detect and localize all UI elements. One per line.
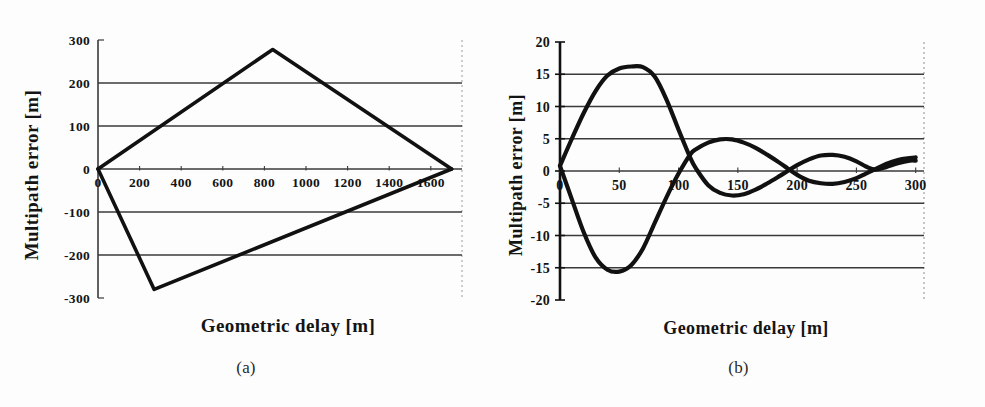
y-axis-title: Multipath error [m] bbox=[506, 94, 526, 256]
y-tick-label: 10 bbox=[535, 100, 550, 115]
y-tick-label: -300 bbox=[64, 291, 90, 306]
y-tick-label: 300 bbox=[69, 33, 90, 48]
chart-panel-a: -300-200-1000100200300020040060080010001… bbox=[0, 0, 492, 407]
x-axis-title: Geometric delay [m] bbox=[663, 318, 829, 338]
chart-panel-b: -20-15-10-505101520050100150200250300Mul… bbox=[492, 0, 985, 407]
y-tick-label: 100 bbox=[69, 119, 90, 134]
panel-a-caption: (a) bbox=[0, 358, 492, 378]
chart-a-plot: -300-200-1000100200300020040060080010001… bbox=[0, 0, 492, 350]
chart-b-plot: -20-15-10-505101520050100150200250300Mul… bbox=[492, 0, 985, 350]
y-tick-label: 0 bbox=[543, 164, 550, 179]
x-tick-label: 600 bbox=[212, 175, 233, 190]
figure-root: -300-200-1000100200300020040060080010001… bbox=[0, 0, 985, 407]
panel-b-caption: (b) bbox=[492, 358, 985, 378]
y-tick-label: -15 bbox=[530, 261, 550, 276]
x-tick-label: 800 bbox=[254, 175, 275, 190]
series-line-upper-envelope bbox=[98, 49, 452, 169]
x-axis-title: Geometric delay [m] bbox=[201, 315, 375, 336]
x-tick-label: 1200 bbox=[333, 175, 361, 190]
x-tick-label: 1400 bbox=[375, 175, 403, 190]
y-tick-label: 15 bbox=[535, 67, 550, 82]
x-tick-label: 400 bbox=[171, 175, 192, 190]
y-tick-label: -10 bbox=[530, 229, 550, 244]
y-tick-label: 5 bbox=[543, 132, 550, 147]
series-curve-damped-oscillation-negative bbox=[560, 139, 916, 272]
x-tick-label: 0 bbox=[556, 178, 563, 193]
y-tick-label: 20 bbox=[535, 35, 550, 50]
y-tick-label: -20 bbox=[530, 293, 550, 308]
y-axis-title: Multipath error [m] bbox=[21, 90, 42, 260]
y-tick-label: 0 bbox=[83, 162, 90, 177]
x-tick-label: 300 bbox=[905, 178, 927, 193]
x-tick-label: 50 bbox=[612, 178, 627, 193]
y-tick-label: -5 bbox=[538, 196, 550, 211]
x-tick-label: 200 bbox=[129, 175, 150, 190]
y-tick-label: -200 bbox=[64, 248, 90, 263]
y-tick-label: 200 bbox=[69, 76, 90, 91]
x-tick-label: 150 bbox=[727, 178, 749, 193]
x-tick-label: 1000 bbox=[292, 175, 320, 190]
y-tick-label: -100 bbox=[64, 205, 90, 220]
